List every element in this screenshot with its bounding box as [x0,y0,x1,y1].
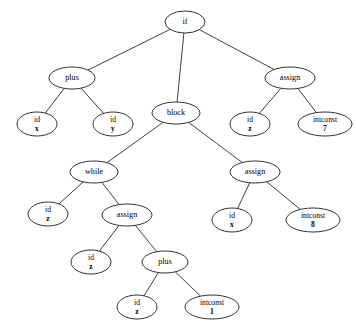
node-label-secondary: x [230,220,234,229]
tree-edge [267,182,300,210]
node-label-primary: assign [117,210,137,219]
tree-node[interactable]: assign [265,67,315,89]
tree-edge [45,88,64,113]
tree-node[interactable]: block [152,102,200,124]
tree-edge [81,88,104,113]
tree-node[interactable]: assign [230,161,280,183]
node-label-secondary: 7 [323,124,327,133]
node-label-primary: block [167,108,186,117]
tree-node[interactable]: assign [102,204,152,226]
tree-node[interactable]: idx [212,208,252,232]
tree-node[interactable]: idz [71,250,111,274]
tree-edge [175,272,200,296]
node-label-primary: if [182,17,187,26]
tree-node[interactable]: intconst7 [298,112,352,136]
tree-node[interactable]: plus [142,251,188,273]
tree-edge [199,30,274,70]
tree-edge [99,225,119,251]
tree-edge [135,225,156,251]
tree-edge [298,88,316,112]
tree-edge [259,88,281,113]
tree-node[interactable]: intconst8 [286,208,340,232]
tree-node[interactable]: idy [93,112,133,136]
tree-edge [59,182,83,204]
tree-node[interactable]: while [70,161,118,183]
tree-edge [144,273,158,296]
tree-node[interactable]: if [165,11,205,33]
node-label-primary: plus [65,73,79,82]
tree-node[interactable]: plus [49,67,95,89]
node-label-primary: assign [245,167,265,176]
tree-node[interactable]: idz [117,295,157,319]
tree-edge [238,183,250,209]
tree-node[interactable]: idx [17,112,57,136]
node-label-primary: assign [280,73,300,82]
tree-edge [88,29,170,70]
node-label-secondary: x [35,124,39,133]
node-label-secondary: 8 [311,220,315,229]
syntax-tree-diagram: ifplusblockassignidxidyidzintconst7while… [0,0,356,330]
node-label-secondary: 1 [210,307,214,316]
tree-node[interactable]: intconst1 [185,295,239,319]
tree-edge [102,182,119,204]
node-label-secondary: y [111,124,115,133]
node-layer: ifplusblockassignidxidyidzintconst7while… [17,11,352,319]
node-label-primary: plus [158,257,172,266]
tree-canvas: ifplusblockassignidxidyidzintconst7while… [0,0,356,330]
tree-node[interactable]: idz [28,202,68,226]
tree-node[interactable]: idz [230,112,270,136]
node-label-primary: while [85,167,104,176]
tree-edge [177,33,184,102]
